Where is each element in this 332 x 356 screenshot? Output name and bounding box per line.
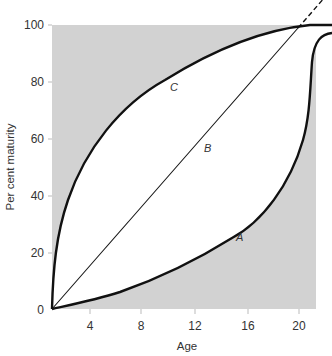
y-tick-40: 40 [31,189,45,203]
x-tick-16: 16 [241,319,255,333]
x-tick-20: 20 [292,319,306,333]
y-tick-80: 80 [31,75,45,89]
y-tick-20: 20 [31,246,45,260]
y-tick-0: 0 [37,303,44,317]
x-axis-ticks [90,309,299,314]
maturity-chart: 100 80 60 40 20 0 4 8 12 16 20 Age Per c… [0,0,332,356]
y-tick-60: 60 [31,132,45,146]
y-axis-ticks [48,25,52,253]
curve-c-label: C [170,81,178,93]
x-tick-4: 4 [87,319,94,333]
curve-b-label: B [204,142,211,154]
y-tick-100: 100 [24,18,44,32]
y-axis-label: Per cent maturity [4,123,16,210]
x-tick-8: 8 [138,319,145,333]
x-tick-12: 12 [188,319,202,333]
x-axis-label: Age [177,340,197,352]
curve-a-label: A [235,231,243,243]
